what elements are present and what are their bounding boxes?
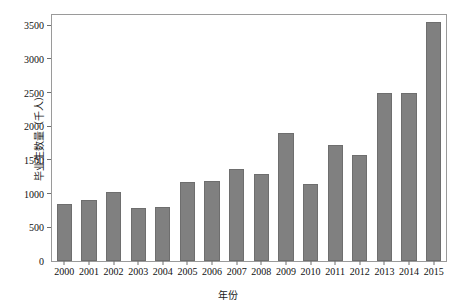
x-tick-2004: 2004 (151, 261, 176, 285)
bar-slot (421, 15, 446, 261)
x-tick-2010: 2010 (298, 261, 323, 285)
x-tick-label: 2015 (424, 266, 444, 277)
x-tick-2001: 2001 (77, 261, 102, 285)
x-tick-2007: 2007 (224, 261, 249, 285)
x-tick-label: 2012 (350, 266, 370, 277)
bar-slot (397, 15, 422, 261)
x-tick-mark (113, 261, 114, 265)
x-tick-mark (335, 261, 336, 265)
x-tick-mark (88, 261, 89, 265)
bar-2000[interactable] (57, 204, 72, 261)
bar-slot (52, 15, 77, 261)
x-tick-mark (261, 261, 262, 265)
bar-2004[interactable] (155, 207, 170, 261)
bar-2014[interactable] (401, 93, 416, 261)
bars-container (52, 15, 446, 261)
x-tick-mark (285, 261, 286, 265)
bar-2003[interactable] (131, 208, 146, 261)
bar-slot (323, 15, 348, 261)
bar-slot (175, 15, 200, 261)
bar-slot (372, 15, 397, 261)
x-tick-label: 2011 (325, 266, 345, 277)
x-axis-ticks: 2000200120022003200420052006200720082009… (52, 261, 446, 285)
bar-2005[interactable] (180, 182, 195, 261)
x-tick-label: 2005 (177, 266, 197, 277)
x-tick-2005: 2005 (175, 261, 200, 285)
x-tick-2015: 2015 (421, 261, 446, 285)
x-tick-mark (409, 261, 410, 265)
bar-slot (249, 15, 274, 261)
y-tick-label: 3500 (24, 20, 44, 31)
x-tick-label: 2000 (54, 266, 74, 277)
bar-2008[interactable] (254, 174, 269, 261)
bar-slot (126, 15, 151, 261)
x-tick-label: 2004 (153, 266, 173, 277)
x-tick-2013: 2013 (372, 261, 397, 285)
x-tick-label: 2007 (227, 266, 247, 277)
x-tick-2009: 2009 (274, 261, 299, 285)
x-tick-label: 2008 (251, 266, 271, 277)
bar-2001[interactable] (81, 200, 96, 261)
x-tick-mark (384, 261, 385, 265)
bar-slot (200, 15, 225, 261)
bar-slot (348, 15, 373, 261)
bar-2015[interactable] (426, 22, 441, 261)
bar-chart: 毕业生数量（千人） 0500100015002000250030003500 2… (0, 0, 455, 308)
x-tick-label: 2002 (104, 266, 124, 277)
bar-slot (224, 15, 249, 261)
x-tick-2008: 2008 (249, 261, 274, 285)
x-tick-mark (433, 261, 434, 265)
x-tick-2011: 2011 (323, 261, 348, 285)
y-axis-title: 毕业生数量（千人） (31, 36, 46, 236)
bar-2011[interactable] (328, 145, 343, 261)
bar-slot (77, 15, 102, 261)
x-tick-mark (162, 261, 163, 265)
x-tick-2000: 2000 (52, 261, 77, 285)
x-tick-label: 2003 (128, 266, 148, 277)
bar-2010[interactable] (303, 184, 318, 262)
bar-slot (274, 15, 299, 261)
x-tick-2003: 2003 (126, 261, 151, 285)
bar-2006[interactable] (204, 181, 219, 261)
x-tick-mark (212, 261, 213, 265)
x-tick-label: 2014 (399, 266, 419, 277)
x-tick-mark (236, 261, 237, 265)
x-tick-label: 2006 (202, 266, 222, 277)
x-tick-mark (138, 261, 139, 265)
x-tick-mark (359, 261, 360, 265)
bar-slot (101, 15, 126, 261)
bar-2007[interactable] (229, 169, 244, 261)
x-tick-mark (187, 261, 188, 265)
bar-slot (298, 15, 323, 261)
x-tick-label: 2010 (301, 266, 321, 277)
x-tick-2002: 2002 (101, 261, 126, 285)
x-axis-title: 年份 (0, 287, 455, 302)
x-tick-mark (64, 261, 65, 265)
x-tick-mark (310, 261, 311, 265)
bar-slot (151, 15, 176, 261)
bar-2013[interactable] (377, 93, 392, 261)
x-tick-2006: 2006 (200, 261, 225, 285)
bar-2012[interactable] (352, 155, 367, 261)
x-tick-label: 2001 (79, 266, 99, 277)
bar-2002[interactable] (106, 192, 121, 261)
y-tick-label: 0 (39, 256, 44, 267)
bar-2009[interactable] (278, 133, 293, 261)
x-tick-2012: 2012 (348, 261, 373, 285)
x-tick-label: 2013 (374, 266, 394, 277)
x-tick-label: 2009 (276, 266, 296, 277)
x-tick-2014: 2014 (397, 261, 422, 285)
